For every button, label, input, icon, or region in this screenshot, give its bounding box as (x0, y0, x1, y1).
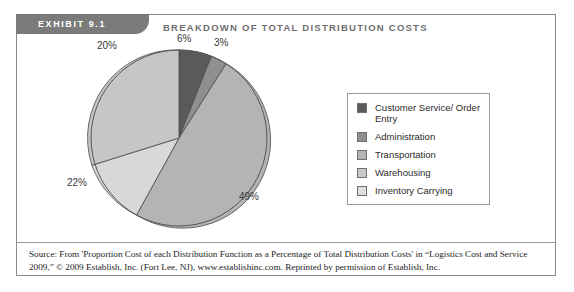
pie-label-inventory-carrying: 20% (97, 40, 117, 51)
exhibit-tag-label: EXHIBIT 9.1 (16, 14, 128, 34)
chart-area: 6% 3% 49% 22% 20% Customer Service/ Orde… (17, 41, 557, 241)
chart-legend: Customer Service/ Order Entry Administra… (347, 93, 490, 205)
legend-item-administration: Administration (357, 131, 481, 142)
legend-item-label: Customer Service/ Order Entry (375, 102, 481, 124)
legend-swatch-icon (357, 168, 367, 178)
pie-label-administration: 3% (214, 37, 228, 48)
legend-item-inventory-carrying: Inventory Carrying (357, 185, 481, 196)
pie-chart-svg (79, 45, 279, 231)
pie-label-warehousing: 22% (67, 177, 87, 188)
legend-item-label: Inventory Carrying (375, 185, 453, 196)
pie-chart: 6% 3% 49% 22% 20% (79, 45, 279, 231)
source-note-line-1: Source: From 'Proportion Cost of each Di… (29, 249, 527, 259)
pie-label-transportation: 49% (239, 191, 259, 202)
exhibit-tag-curve (127, 14, 149, 34)
source-note: Source: From 'Proportion Cost of each Di… (29, 248, 545, 273)
legend-item-customer-service: Customer Service/ Order Entry (357, 102, 481, 124)
source-divider (17, 242, 555, 243)
legend-swatch-icon (357, 150, 367, 160)
legend-swatch-icon (357, 103, 367, 113)
legend-item-label: Warehousing (375, 167, 431, 178)
exhibit-figure: EXHIBIT 9.1 BREAKDOWN OF TOTAL DISTRIBUT… (0, 0, 574, 292)
source-note-line-2: 2009,” © 2009 Establish, Inc. (Fort Lee,… (29, 262, 440, 272)
legend-item-transportation: Transportation (357, 149, 481, 160)
exhibit-frame: EXHIBIT 9.1 BREAKDOWN OF TOTAL DISTRIBUT… (16, 14, 556, 276)
legend-swatch-icon (357, 186, 367, 196)
exhibit-header: EXHIBIT 9.1 BREAKDOWN OF TOTAL DISTRIBUT… (17, 15, 557, 41)
legend-item-label: Administration (375, 131, 435, 142)
pie-label-customer-service: 6% (177, 33, 191, 44)
exhibit-title: BREAKDOWN OF TOTAL DISTRIBUTION COSTS (163, 22, 428, 33)
legend-item-warehousing: Warehousing (357, 167, 481, 178)
legend-swatch-icon (357, 132, 367, 142)
legend-item-label: Transportation (375, 149, 436, 160)
